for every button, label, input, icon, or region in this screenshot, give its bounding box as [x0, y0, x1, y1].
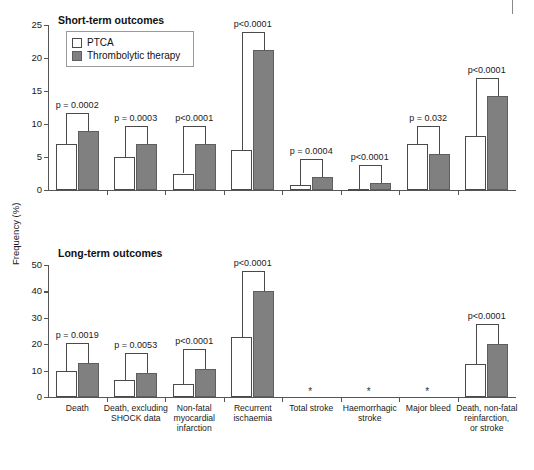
- bar-thrombolytic: [136, 373, 157, 397]
- p-bracket-left-arm: [183, 126, 184, 174]
- p-bracket-horizontal: [66, 113, 88, 114]
- x-axis-category-label-line: Major bleed: [396, 403, 461, 413]
- bar-ptca: [231, 337, 252, 397]
- x-axis-category-label-line: stroke: [338, 413, 403, 423]
- p-bracket-horizontal: [66, 343, 88, 344]
- p-value-label: p = 0.0002: [48, 100, 106, 110]
- x-axis-category-label: Haemorrhagicstroke: [338, 403, 403, 423]
- x-axis-category-label: Recurrentischaemia: [221, 403, 286, 423]
- x-axis-category-label-line: reinfarction,: [455, 413, 520, 423]
- figure-canvas: Frequency (%) Short-term outcomes PTCA T…: [0, 0, 534, 470]
- y-axis-tick: [44, 397, 48, 398]
- x-axis-category-label-line: Total stroke: [279, 403, 344, 413]
- x-axis-tick: [399, 398, 400, 402]
- p-bracket-left-arm: [476, 324, 477, 364]
- y-axis-tick: [44, 291, 48, 292]
- p-bracket-horizontal: [476, 78, 498, 79]
- no-data-asterisk: *: [425, 388, 429, 396]
- x-axis-category-label: Major bleed: [396, 403, 461, 413]
- x-axis-category-label-line: Non-fatal: [162, 403, 227, 413]
- y-axis-tick-label: 40: [12, 286, 42, 296]
- p-value-label: p<0.0001: [224, 258, 282, 268]
- y-axis-tick-label: 25: [12, 20, 42, 30]
- y-axis-tick: [44, 58, 48, 59]
- p-bracket-horizontal: [125, 126, 147, 127]
- x-axis-tick: [224, 398, 225, 402]
- y-axis-tick-label: 15: [12, 86, 42, 96]
- bar-ptca: [407, 144, 428, 190]
- bar-ptca: [465, 136, 486, 190]
- x-axis-category-label-line: Death: [45, 403, 110, 413]
- p-bracket-right-arm: [264, 271, 265, 291]
- x-axis-tick: [282, 191, 283, 195]
- y-axis-tick-label: 30: [12, 313, 42, 323]
- no-data-asterisk: *: [308, 388, 312, 396]
- y-axis-tick: [44, 265, 48, 266]
- x-axis-tick: [341, 191, 342, 195]
- x-axis-category-label-line: Death, non-fatal: [455, 403, 520, 413]
- p-value-label: p<0.0001: [165, 336, 223, 346]
- p-bracket-horizontal: [417, 126, 439, 127]
- bar-thrombolytic: [253, 50, 274, 190]
- y-axis-tick-label: 0: [12, 185, 42, 195]
- p-bracket-right-arm: [147, 126, 148, 144]
- p-bracket-left-arm: [300, 159, 301, 186]
- y-axis-tick-label: 20: [12, 53, 42, 63]
- x-axis-tick: [165, 398, 166, 402]
- y-axis-tick: [44, 25, 48, 26]
- x-axis-category-label: Death, excludingSHOCK data: [104, 403, 169, 423]
- p-bracket-horizontal: [183, 126, 205, 127]
- p-bracket-right-arm: [439, 126, 440, 154]
- p-bracket-left-arm: [242, 32, 243, 150]
- p-value-label: p<0.0001: [224, 19, 282, 29]
- panel-short-term: Short-term outcomes PTCA Thrombolytic th…: [0, 0, 534, 225]
- p-bracket-horizontal: [183, 349, 205, 350]
- bar-ptca: [465, 364, 486, 397]
- bar-ptca: [114, 380, 135, 397]
- p-bracket-left-arm: [125, 126, 126, 157]
- x-axis-category-label: Death, non-fatalreinfarction,or stroke: [455, 403, 520, 433]
- p-value-label: p<0.0001: [341, 152, 399, 162]
- y-axis-tick: [44, 124, 48, 125]
- p-bracket-left-arm: [66, 343, 67, 371]
- p-bracket-left-arm: [476, 78, 477, 136]
- p-value-label: p<0.0001: [458, 65, 516, 75]
- bar-thrombolytic: [253, 291, 274, 397]
- plot-area-long-term: 01020304050p = 0.0019p = 0.0053p<0.0001p…: [0, 225, 534, 470]
- x-axis-category-label-line: Death, excluding: [104, 403, 169, 413]
- p-value-label: p = 0.0053: [107, 340, 165, 350]
- x-axis-category-label: Non-fatalmyocardialinfarction: [162, 403, 227, 433]
- x-axis-tick: [458, 398, 459, 402]
- y-axis-tick: [44, 91, 48, 92]
- bar-thrombolytic: [312, 177, 333, 190]
- p-bracket-right-arm: [264, 32, 265, 50]
- p-bracket-right-arm: [205, 349, 206, 369]
- p-bracket-horizontal: [300, 159, 322, 160]
- p-bracket-right-arm: [498, 324, 499, 344]
- y-axis-tick-label: 0: [12, 392, 42, 402]
- y-axis-tick-label: 10: [12, 119, 42, 129]
- p-bracket-left-arm: [66, 113, 67, 144]
- bar-ptca: [56, 144, 77, 190]
- x-axis-tick: [458, 191, 459, 195]
- bar-thrombolytic: [136, 144, 157, 190]
- bar-thrombolytic: [429, 154, 450, 190]
- p-value-label: p = 0.032: [399, 113, 457, 123]
- y-axis-tick-label: 10: [12, 366, 42, 376]
- x-axis-tick: [224, 191, 225, 195]
- p-bracket-right-arm: [205, 126, 206, 144]
- p-bracket-right-arm: [381, 165, 382, 183]
- x-axis-category-label-line: ischaemia: [221, 413, 286, 423]
- p-bracket-horizontal: [476, 324, 498, 325]
- bar-ptca: [114, 157, 135, 190]
- p-bracket-horizontal: [359, 165, 381, 166]
- p-bracket-right-arm: [88, 343, 89, 363]
- bar-ptca: [231, 150, 252, 190]
- y-axis-tick: [44, 371, 48, 372]
- p-bracket-left-arm: [242, 271, 243, 337]
- x-axis-tick: [282, 398, 283, 402]
- p-value-label: p = 0.0003: [107, 113, 165, 123]
- bar-thrombolytic: [195, 369, 216, 397]
- y-axis-tick-label: 20: [12, 339, 42, 349]
- y-axis-tick: [44, 190, 48, 191]
